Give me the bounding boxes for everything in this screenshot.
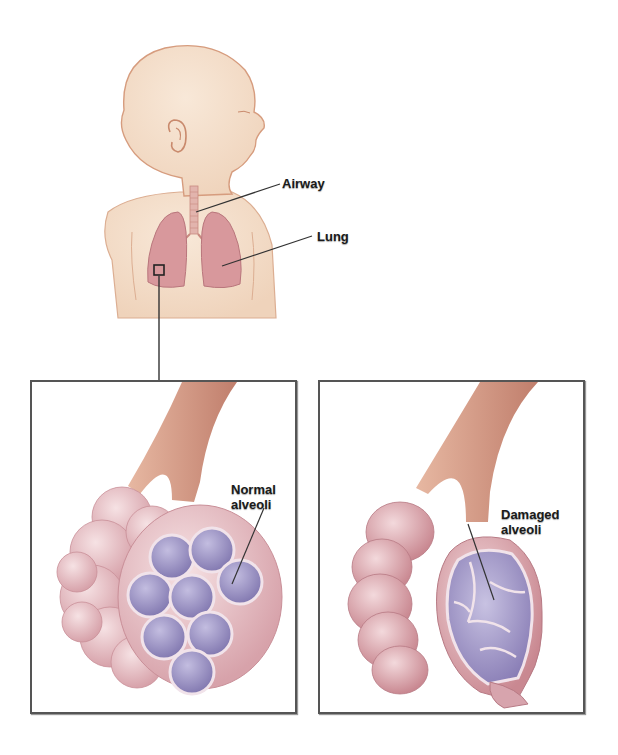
damaged-alveoli-illustration (320, 382, 583, 712)
normal-alveoli-illustration (32, 382, 295, 712)
damaged-alveoli-panel: Damaged alveoli (318, 380, 585, 714)
lung-label: Lung (317, 229, 349, 244)
diagram: Airway Lung (0, 0, 618, 755)
damaged-alveoli-label: Damaged alveoli (501, 507, 560, 537)
airway-label: Airway (282, 176, 325, 191)
normal-alveoli-label: Normal alveoli (231, 482, 276, 512)
normal-alveoli-panel: Normal alveoli (30, 380, 297, 714)
